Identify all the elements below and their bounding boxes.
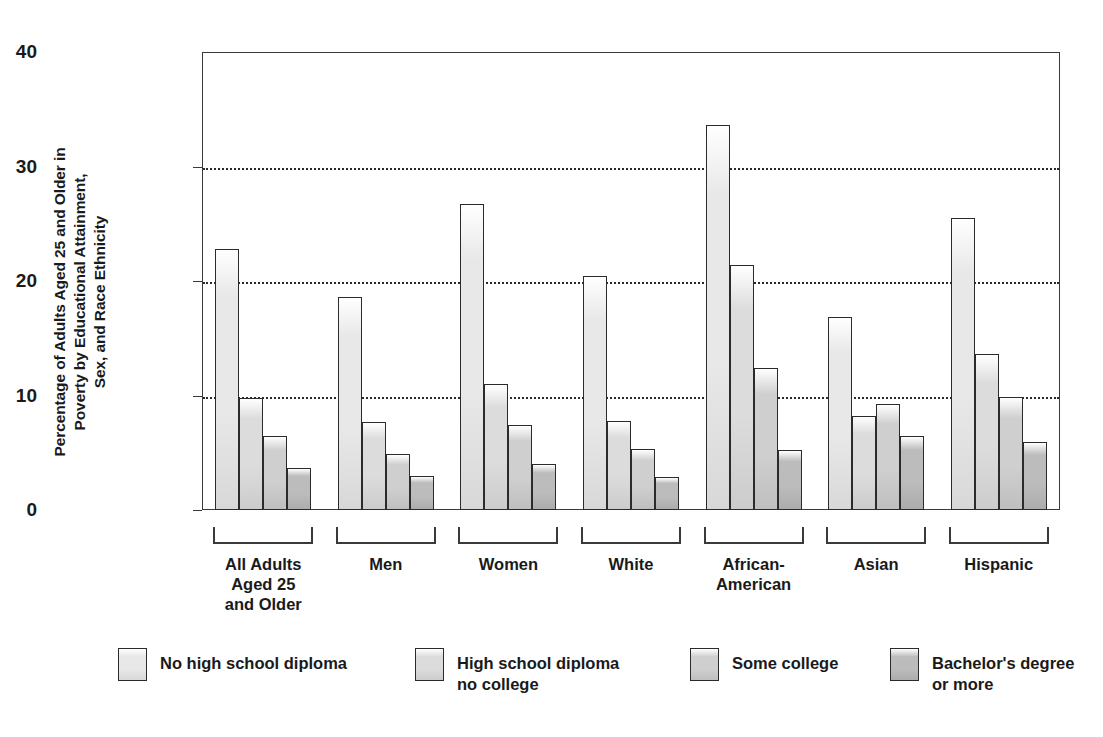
category-bracket: [458, 527, 558, 544]
legend-swatch: [690, 648, 719, 681]
category-bracket: [949, 527, 1049, 544]
legend-swatch-shadow: [695, 645, 722, 676]
y-tick-mark: [193, 167, 202, 168]
category-label: Hispanic: [929, 555, 1069, 575]
y-tick-mark: [193, 396, 202, 397]
category-label: White: [561, 555, 701, 575]
category-bracket: [704, 527, 804, 544]
y-axis-title-text: Percentage of Adults Aged 25 and Older i…: [50, 147, 109, 456]
category-label: African- American: [684, 555, 824, 595]
chart-legend: No high school diplomaHigh school diplom…: [0, 645, 1103, 735]
legend-label: No high school diploma: [160, 645, 347, 674]
legend-item[interactable]: Some college: [690, 645, 838, 681]
legend-swatch: [890, 648, 919, 681]
gridline: [203, 397, 1059, 399]
y-tick-mark: [193, 281, 202, 282]
y-tick-label: 30: [0, 156, 37, 178]
legend-item[interactable]: No high school diploma: [118, 645, 347, 681]
category-bracket: [336, 527, 436, 544]
y-tick-label: 40: [0, 41, 37, 63]
legend-label: High school diploma no college: [457, 645, 619, 694]
y-tick-label: 20: [0, 270, 37, 292]
category-bracket: [581, 527, 681, 544]
legend-item[interactable]: Bachelor's degree or more: [890, 645, 1074, 694]
category-bracket: [213, 527, 313, 544]
gridline: [203, 282, 1059, 284]
legend-item[interactable]: High school diploma no college: [415, 645, 619, 694]
y-tick-mark: [193, 510, 202, 511]
category-label: Men: [316, 555, 456, 575]
category-bracket: [826, 527, 926, 544]
chart-figure: Percentage of Adults Aged 25 and Older i…: [0, 0, 1103, 737]
y-tick-label: 10: [0, 385, 37, 407]
legend-label: Bachelor's degree or more: [932, 645, 1074, 694]
y-axis-title: Percentage of Adults Aged 25 and Older i…: [50, 72, 110, 532]
category-label: Women: [438, 555, 578, 575]
legend-swatch-shadow: [420, 645, 447, 676]
plot-area: [202, 52, 1060, 510]
legend-label: Some college: [732, 645, 838, 674]
category-label: Asian: [806, 555, 946, 575]
category-label: All Adults Aged 25 and Older: [193, 555, 333, 614]
legend-swatch-shadow: [123, 645, 150, 676]
legend-swatch: [415, 648, 444, 681]
y-tick-label: 0: [0, 499, 37, 521]
legend-swatch: [118, 648, 147, 681]
legend-swatch-shadow: [895, 645, 922, 676]
gridline: [203, 168, 1059, 170]
